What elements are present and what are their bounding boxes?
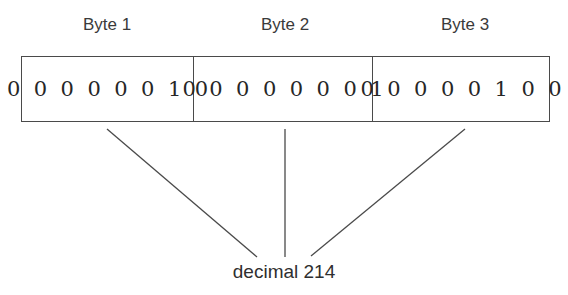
byte-cell-1: 0 0 0 0 0 0 1 0 bbox=[22, 57, 194, 121]
byte-cell-3: 0 0 0 0 0 1 0 0 bbox=[373, 57, 549, 121]
byte-label-3: Byte 3 bbox=[441, 14, 489, 36]
byte-bits-3: 0 0 0 0 0 1 0 0 bbox=[357, 79, 565, 100]
decimal-value-caption: decimal 214 bbox=[233, 260, 335, 284]
connector-lines bbox=[0, 0, 568, 295]
connector-line-byte-1 bbox=[107, 129, 257, 257]
byte-bits-2: 0 0 0 0 0 0 0 1 bbox=[179, 79, 387, 100]
byte-label-2: Byte 2 bbox=[261, 14, 309, 36]
byte-field-box: 0 0 0 0 0 0 1 0 0 0 0 0 0 0 0 1 0 0 0 0 … bbox=[21, 56, 550, 122]
byte-label-1: Byte 1 bbox=[83, 14, 131, 36]
byte-diagram: Byte 1 Byte 2 Byte 3 0 0 0 0 0 0 1 0 0 0… bbox=[0, 0, 568, 295]
byte-cell-2: 0 0 0 0 0 0 0 1 bbox=[194, 57, 373, 121]
connector-line-byte-3 bbox=[311, 129, 465, 256]
